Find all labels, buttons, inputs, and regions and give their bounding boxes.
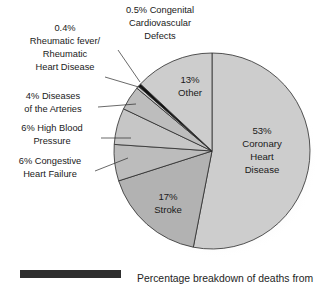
caption-label: Percentage breakdown of deaths from — [137, 273, 313, 284]
label-other-line2: Other — [178, 87, 203, 98]
caption-row: Percentage breakdown of deaths from — [20, 270, 313, 284]
label-coronary-line3: Heart — [250, 151, 274, 162]
label-other-line1: 13% — [180, 74, 200, 85]
pie-chart-svg: 0.5% Congenital Cardiovascular Defects 0… — [0, 0, 325, 288]
label-arteries-line1: 4% Diseases — [26, 91, 81, 101]
label-congestive-line1: 6% Congestive — [19, 156, 82, 166]
caption-rule-swatch — [20, 270, 121, 278]
label-coronary-line2: Coronary — [242, 138, 282, 149]
label-rheumatic: 0.4% Rheumatic fever/ Rheumatic Heart Di… — [30, 23, 101, 72]
leader-line-congenital — [118, 50, 140, 82]
label-congenital-line1: 0.5% Congenital — [126, 5, 194, 15]
label-coronary-line1: 53% — [252, 125, 272, 136]
label-highblood: 6% High Blood Pressure — [21, 123, 83, 146]
label-highblood-line2: Pressure — [33, 136, 70, 146]
label-stroke-line1: 17% — [158, 191, 178, 202]
label-rheumatic-line2: Rheumatic fever/ — [30, 36, 101, 46]
label-congenital-line2: Cardiovascular — [129, 18, 191, 28]
label-rheumatic-line1: 0.4% — [54, 23, 75, 33]
label-rheumatic-line4: Heart Disease — [36, 62, 95, 72]
label-congestive: 6% Congestive Heart Failure — [19, 156, 82, 179]
label-congenital: 0.5% Congenital Cardiovascular Defects — [126, 5, 194, 41]
label-arteries: 4% Diseases of the Arteries — [24, 91, 82, 114]
label-coronary-line4: Disease — [245, 164, 280, 175]
label-arteries-line2: of the Arteries — [24, 104, 82, 114]
pie-slices-group — [114, 53, 310, 249]
pie-chart-figure: 0.5% Congenital Cardiovascular Defects 0… — [0, 0, 325, 288]
label-stroke-line2: Stroke — [154, 204, 182, 215]
label-highblood-line1: 6% High Blood — [21, 123, 83, 133]
label-congestive-line2: Heart Failure — [23, 169, 77, 179]
label-congenital-line3: Defects — [144, 31, 176, 41]
leader-line-rheumatic — [105, 77, 142, 88]
label-rheumatic-line3: Rheumatic — [43, 49, 88, 59]
